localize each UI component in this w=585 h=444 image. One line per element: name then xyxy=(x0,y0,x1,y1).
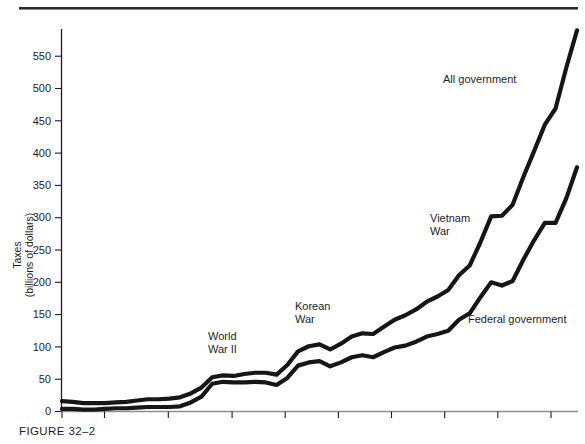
y-axis-title-line1: Taxes xyxy=(11,241,23,268)
y-tick-label: 450 xyxy=(33,115,51,127)
y-tick-label: 200 xyxy=(33,276,51,288)
y-axis-title: Taxes (billions of dollars) xyxy=(11,213,35,298)
annotation-line1: Vietnam xyxy=(430,212,470,224)
annotation-korean-war: Korean War xyxy=(295,300,330,325)
y-tick-label: 50 xyxy=(39,373,51,385)
y-tick-label: 0 xyxy=(45,405,51,417)
series-label-federal-government: Federal government xyxy=(468,313,566,325)
x-axis-ticks xyxy=(62,412,551,419)
y-axis-ticks xyxy=(55,56,62,411)
annotation-line2: War II xyxy=(208,343,237,355)
figure-caption: FIGURE 32–2 xyxy=(19,425,96,437)
annotation-line2: War xyxy=(430,225,450,237)
tax-revenue-line-chart: 0 50 100 150 200 250 300 350 400 450 500… xyxy=(0,0,585,420)
series-label-all-government: All government xyxy=(443,73,516,85)
annotation-line1: World xyxy=(208,330,237,342)
y-tick-label: 150 xyxy=(33,308,51,320)
y-tick-label: 350 xyxy=(33,179,51,191)
y-tick-label: 300 xyxy=(33,211,51,223)
y-tick-label: 550 xyxy=(33,50,51,62)
annotation-line1: Korean xyxy=(295,300,330,312)
series-line-federal-government xyxy=(62,167,577,409)
annotation-vietnam-war: Vietnam War xyxy=(430,212,470,237)
annotation-line2: War xyxy=(295,313,315,325)
series-line-all-government xyxy=(62,30,577,403)
y-axis-title-line2: (billions of dollars) xyxy=(23,213,35,298)
y-axis-tick-labels: 0 50 100 150 200 250 300 350 400 450 500… xyxy=(33,50,51,417)
y-tick-label: 100 xyxy=(33,341,51,353)
figure-container: 0 50 100 150 200 250 300 350 400 450 500… xyxy=(0,0,585,444)
y-tick-label: 400 xyxy=(33,147,51,159)
y-tick-label: 500 xyxy=(33,82,51,94)
annotation-world-war-ii: World War II xyxy=(208,330,237,355)
y-tick-label: 250 xyxy=(33,244,51,256)
